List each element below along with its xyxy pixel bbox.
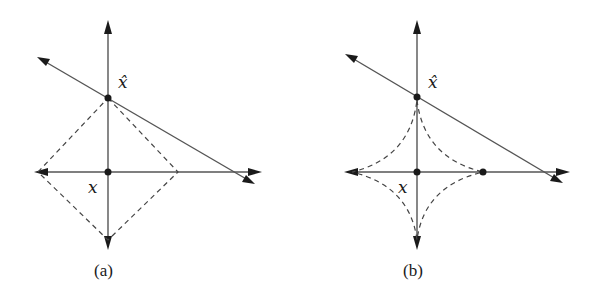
arrow-left-icon [344,168,358,176]
origin-point-x [414,169,421,176]
arrow-right-icon [556,168,570,176]
axis-point [480,169,487,176]
arrow-up-icon [104,20,112,34]
arrow-diagonal-upper-icon [345,54,358,63]
panel-a: x̂ x (a) [34,20,262,280]
constraint-line [44,61,248,180]
caption-a: (a) [94,261,113,280]
label-x: x [398,177,408,197]
arrow-diagonal-lower-icon [242,175,255,184]
origin-point-x [105,169,112,176]
label-xhat: x̂ [428,72,438,92]
figure-sparse-recovery: x̂ x (a) x̂ x (b) [0,0,592,304]
panel-b: x̂ x (b) [344,20,570,280]
arrow-diagonal-upper-icon [37,57,50,66]
arrow-right-icon [248,168,262,176]
solution-point-xhat [105,95,112,102]
solution-point-xhat [414,94,421,101]
label-xhat: x̂ [118,72,128,92]
label-x: x [88,177,98,197]
arrow-up-icon [413,20,421,34]
caption-b: (b) [403,261,423,280]
